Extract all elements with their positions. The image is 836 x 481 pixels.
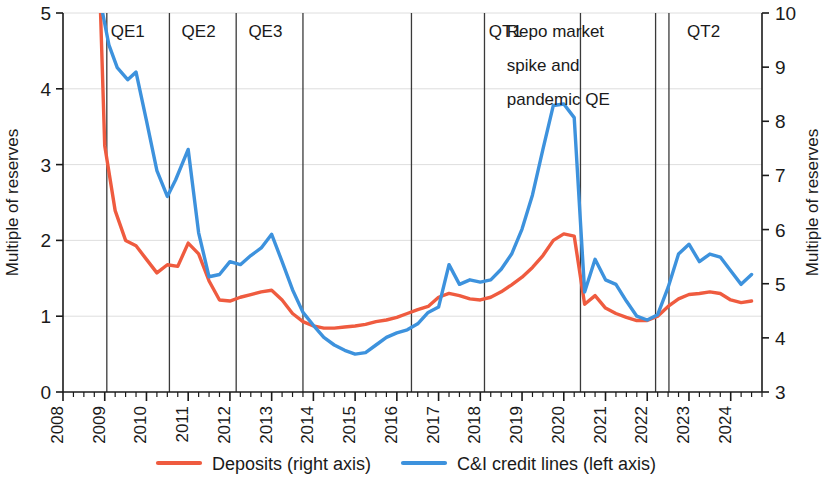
right-tick-label: 3: [775, 382, 786, 403]
right-tick-label: 7: [775, 165, 786, 186]
tick-labels: 0123453456789102008200920102011201220132…: [40, 3, 796, 444]
axis-titles: Multiple of reservesMultiple of reserves: [3, 129, 822, 276]
x-tick-label: 2009: [90, 406, 109, 444]
left-tick-label: 3: [40, 155, 51, 176]
x-tick-label: 2013: [257, 406, 276, 444]
era-label: spike and: [507, 56, 580, 75]
right-axis-title: Multiple of reserves: [803, 129, 822, 276]
x-tick-label: 2016: [382, 406, 401, 444]
x-tick-label: 2024: [716, 406, 735, 444]
x-tick-label: 2015: [340, 406, 359, 444]
left-tick-label: 0: [40, 382, 51, 403]
x-tick-label: 2008: [48, 406, 67, 444]
x-tick-label: 2020: [549, 406, 568, 444]
x-tick-label: 2011: [173, 406, 192, 443]
right-tick-label: 9: [775, 57, 786, 78]
plot-lines: [101, 13, 752, 354]
x-tick-label: 2012: [215, 406, 234, 444]
x-tick-label: 2022: [632, 406, 651, 444]
series-line-deposits: [101, 13, 752, 328]
right-tick-label: 8: [775, 111, 786, 132]
era-label: QE1: [111, 22, 145, 41]
right-tick-label: 5: [775, 274, 786, 295]
left-tick-label: 5: [40, 3, 51, 24]
series-line-ci-credit-lines: [103, 13, 752, 354]
legend-label: Deposits (right axis): [212, 454, 371, 474]
right-tick-label: 6: [775, 220, 786, 241]
left-tick-label: 4: [40, 79, 51, 100]
x-tick-label: 2017: [424, 406, 443, 444]
era-label: QE3: [248, 22, 282, 41]
x-tick-label: 2014: [298, 406, 317, 444]
legend-label: C&I credit lines (left axis): [457, 454, 656, 474]
chart-container: 0123453456789102008200920102011201220132…: [0, 0, 836, 481]
axes: [56, 13, 769, 401]
x-tick-label: 2010: [131, 406, 150, 444]
era-label: QT2: [687, 22, 720, 41]
right-tick-label: 10: [775, 3, 796, 24]
right-tick-label: 4: [775, 328, 786, 349]
x-tick-label: 2019: [507, 406, 526, 444]
left-tick-label: 1: [40, 306, 51, 327]
x-tick-label: 2023: [674, 406, 693, 444]
x-tick-label: 2021: [591, 406, 610, 444]
left-tick-label: 2: [40, 230, 51, 251]
gridlines: [63, 13, 762, 316]
era-labels: QE1QE2QE3QT1Repo marketspike andpandemic…: [111, 22, 720, 109]
era-label: pandemic QE: [507, 90, 610, 109]
line-chart: 0123453456789102008200920102011201220132…: [0, 0, 836, 481]
left-axis-title: Multiple of reserves: [3, 129, 22, 276]
x-tick-label: 2018: [465, 406, 484, 444]
era-label: QE2: [182, 22, 216, 41]
era-label: Repo market: [507, 22, 605, 41]
legend: Deposits (right axis)C&I credit lines (l…: [158, 454, 656, 474]
